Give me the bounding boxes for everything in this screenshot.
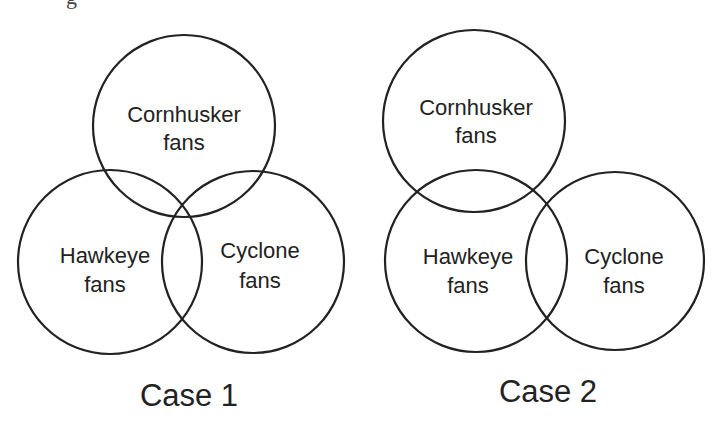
- cornhusker-label-case-2-line1: Cornhusker: [419, 95, 533, 120]
- hawkeye-label-case-1-line2: fans: [84, 272, 126, 297]
- cyclone-label-case-2-line2: fans: [603, 273, 645, 298]
- cornhusker-label-case-1-line2: fans: [163, 130, 205, 155]
- cyclone-label-case-1-line1: Cyclone: [220, 238, 299, 263]
- case-1-caption: Case 1: [140, 378, 238, 413]
- hawkeye-label-case-2-line2: fans: [447, 273, 489, 298]
- case-2-caption: Case 2: [499, 374, 597, 409]
- venn-diagrams-figure: g Cornhusker fans Hawkeye fans Cyclone f…: [0, 0, 720, 427]
- cyclone-label-case-2-line1: Cyclone: [584, 244, 663, 269]
- cyclone-label-case-1-line2: fans: [239, 268, 281, 293]
- venn-case-1: Cornhusker fans Hawkeye fans Cyclone fan…: [18, 35, 344, 413]
- cornhusker-label-case-1-line1: Cornhusker: [127, 102, 241, 127]
- hawkeye-label-case-1-line1: Hawkeye: [60, 243, 150, 268]
- cornhusker-label-case-2-line2: fans: [455, 123, 497, 148]
- cornhusker-circle-case-2: [383, 30, 565, 212]
- venn-case-2: Cornhusker fans Hawkeye fans Cyclone fan…: [383, 30, 704, 409]
- cropped-heading-fragment: g: [66, 0, 77, 9]
- hawkeye-label-case-2-line1: Hawkeye: [423, 244, 513, 269]
